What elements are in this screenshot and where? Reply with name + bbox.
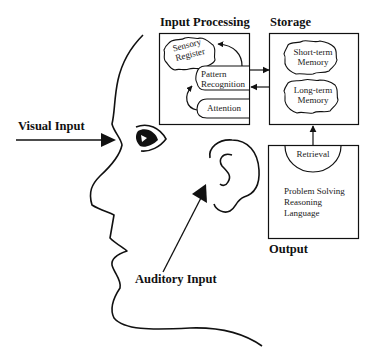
short-term-memory-label: Short-term Memory [292,47,334,67]
output-functions-list: Problem Solving Reasoning Language [284,186,345,219]
retrieval-label: Retrieval [290,149,336,159]
output-function-item: Language [284,208,345,219]
auditory-input-arrow [163,192,204,272]
long-term-memory-label: Long-term Memory [292,85,334,105]
output-title: Output [269,242,308,257]
output-function-item: Reasoning [284,197,345,208]
pattern-recognition-label: Pattern Recognition [201,69,245,89]
visual-input-label: Visual Input [18,119,85,134]
eye-icon [136,125,166,151]
output-function-item: Problem Solving [284,186,345,197]
ear-icon [210,140,259,212]
auditory-input-label: Auditory Input [135,272,217,287]
attention-label: Attention [207,103,241,113]
input-processing-title: Input Processing [160,15,250,30]
storage-title: Storage [270,15,311,30]
